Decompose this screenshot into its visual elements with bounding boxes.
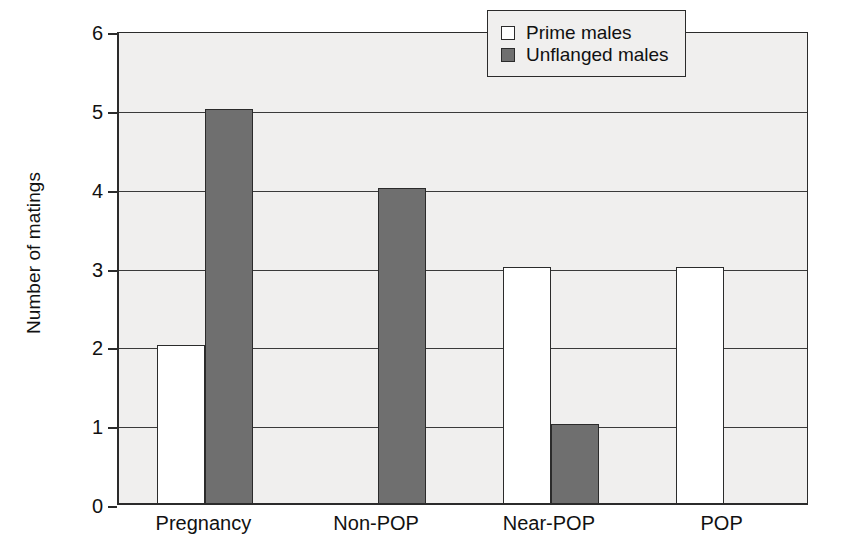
- bar-near-pop-unflanged-males: [551, 424, 599, 503]
- legend-swatch-filled-square-icon: [501, 48, 515, 62]
- plot-area: 0123456: [117, 32, 808, 505]
- bar-non-pop-unflanged-males: [378, 188, 426, 503]
- bar-chart-figure: Number of matings 0123456 Prime males Un…: [0, 0, 841, 558]
- x-axis-label-pregnancy: Pregnancy: [156, 512, 252, 535]
- legend-label-unflanged-males: Unflanged males: [526, 45, 669, 64]
- x-axis-label-near-pop: Near-POP: [503, 512, 595, 535]
- bar-pop-prime-males: [676, 267, 724, 504]
- y-tick-3: [108, 270, 117, 272]
- bar-pregnancy-prime-males: [157, 345, 205, 503]
- legend-entry-prime-males: Prime males: [501, 23, 669, 42]
- y-tick-label-4: 4: [92, 181, 103, 201]
- y-tick-label-1: 1: [92, 417, 103, 437]
- y-tick-label-3: 3: [92, 260, 103, 280]
- legend-swatch-open-square-icon: [501, 26, 515, 40]
- y-tick-5: [108, 112, 117, 114]
- x-axis-label-pop: POP: [701, 512, 743, 535]
- y-axis-title-text: Number of matings: [23, 171, 45, 333]
- y-tick-label-6: 6: [92, 23, 103, 43]
- bar-pregnancy-unflanged-males: [205, 109, 253, 503]
- y-tick-4: [108, 191, 117, 193]
- bar-near-pop-prime-males: [503, 267, 551, 504]
- y-tick-label-2: 2: [92, 338, 103, 358]
- legend-label-prime-males: Prime males: [526, 23, 632, 42]
- y-tick-1: [108, 427, 117, 429]
- legend-entry-unflanged-males: Unflanged males: [501, 45, 669, 64]
- y-tick-2: [108, 348, 117, 350]
- y-tick-label-5: 5: [92, 102, 103, 122]
- y-tick-label-0: 0: [92, 496, 103, 516]
- y-axis-title: Number of matings: [14, 0, 54, 505]
- x-axis-label-non-pop: Non-POP: [333, 512, 419, 535]
- y-tick-6: [108, 33, 117, 35]
- chart-legend: Prime males Unflanged males: [487, 10, 686, 77]
- y-tick-0: [108, 506, 117, 508]
